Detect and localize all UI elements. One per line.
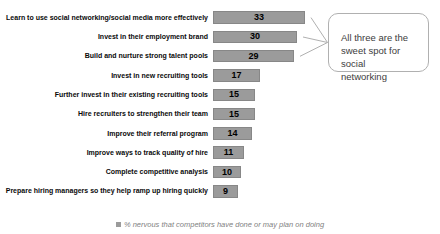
category-label: Prepare hiring managers so they help ram…	[0, 187, 213, 195]
chart-row: Improve their referral program14	[0, 124, 305, 143]
category-label: Improve ways to track quality of hire	[0, 149, 213, 157]
chart-legend: % nervous that competitors have done or …	[0, 221, 440, 229]
bar: 14	[213, 127, 252, 140]
legend-square-marker	[116, 222, 121, 227]
chart-row: Complete competitive analysis10	[0, 162, 305, 181]
chart-row: Learn to use social networking/social me…	[0, 8, 305, 27]
bar-value-label: 15	[229, 90, 239, 99]
bar: 11	[213, 146, 244, 159]
connector-line	[311, 18, 328, 43]
bar-value-label: 9	[223, 187, 228, 196]
category-label: Complete competitive analysis	[0, 168, 213, 176]
bar: 29	[213, 50, 294, 63]
chart-row: Further invest in their existing recruit…	[0, 85, 305, 104]
bar: 10	[213, 166, 241, 179]
connector-line	[303, 37, 328, 43]
bar: 33	[213, 11, 305, 24]
bar-value-label: 15	[229, 110, 239, 119]
bar: 15	[213, 89, 255, 102]
bar-chart: Learn to use social networking/social me…	[0, 0, 440, 234]
chart-row: Invest in their employment brand30	[0, 27, 305, 46]
category-label: Invest in new recruiting tools	[0, 72, 213, 80]
bar: 17	[213, 69, 260, 82]
bar-value-label: 29	[248, 52, 258, 61]
bar-value-label: 14	[227, 129, 237, 138]
bar-value-label: 33	[254, 13, 264, 22]
category-label: Build and nurture strong talent pools	[0, 52, 213, 60]
bar-value-label: 17	[231, 71, 241, 80]
category-label: Improve their referral program	[0, 130, 213, 138]
chart-row: Improve ways to track quality of hire11	[0, 143, 305, 162]
category-label: Hire recruiters to strengthen their team	[0, 110, 213, 118]
callout-text: All three are the sweet spot for social …	[341, 32, 408, 82]
chart-row: Hire recruiters to strengthen their team…	[0, 104, 305, 123]
bar: 30	[213, 31, 297, 44]
legend-label: % nervous that competitors have done or …	[124, 221, 324, 229]
bar-value-label: 11	[224, 148, 234, 157]
bar-value-label: 10	[222, 168, 232, 177]
chart-row: Invest in new recruiting tools17	[0, 66, 305, 85]
category-label: Learn to use social networking/social me…	[0, 14, 213, 22]
bar: 15	[213, 108, 255, 121]
category-label: Further invest in their existing recruit…	[0, 91, 213, 99]
callout-box: All three are the sweet spot for social …	[328, 13, 429, 72]
chart-rows: Learn to use social networking/social me…	[0, 8, 305, 201]
chart-row: Build and nurture strong talent pools29	[0, 47, 305, 66]
bar: 9	[213, 185, 238, 198]
chart-row: Prepare hiring managers so they help ram…	[0, 182, 305, 201]
bar-value-label: 30	[250, 32, 260, 41]
category-label: Invest in their employment brand	[0, 33, 213, 41]
